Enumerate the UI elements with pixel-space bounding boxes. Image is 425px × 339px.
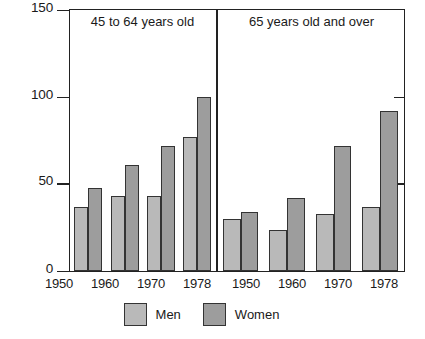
legend-item-women: Women [203,303,302,326]
x-label-right-1978: 1978 [359,276,409,291]
legend-swatch-women [203,303,226,326]
bar-men-1950-panel1 [74,207,88,272]
bar-women-1960-panel1 [125,165,139,271]
bar-chart: 150 100 50 0 45 to 64 years old 65 years… [0,0,425,339]
legend-label-men: Men [156,307,181,322]
legend-swatch-men [124,303,147,326]
bar-men-1960-panel1 [111,196,125,271]
bar-men-1970-panel2 [316,214,334,272]
bar-women-1950-panel1 [88,188,102,272]
bar-women-1950-panel2 [241,212,259,271]
bar-men-1978-panel1 [183,137,197,271]
legend-label-women: Women [235,307,280,322]
x-label-right-1960: 1960 [267,276,317,291]
legend: Men Women [0,303,425,326]
x-label-right-1970: 1970 [313,276,363,291]
x-label-left-1978: 1978 [172,276,222,291]
x-label-left-1970: 1970 [126,276,176,291]
bar-men-1978-panel2 [362,207,380,272]
bar-women-1978-panel2 [380,111,398,272]
bar-men-1950-panel2 [223,219,241,271]
bar-women-1970-panel1 [161,146,175,272]
bar-women-1978-panel1 [197,97,211,271]
x-label-left-1960: 1960 [80,276,130,291]
bar-women-1960-panel2 [287,198,305,271]
x-label-right-1950: 1950 [221,276,271,291]
bar-men-1970-panel1 [147,196,161,271]
x-label-left-1950: 1950 [34,276,84,291]
bar-women-1970-panel2 [334,146,352,272]
legend-item-men: Men [124,303,203,326]
bar-men-1960-panel2 [269,230,287,272]
